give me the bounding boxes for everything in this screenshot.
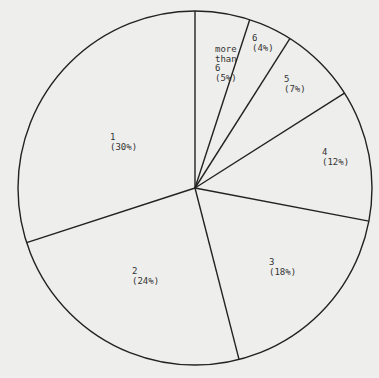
slice-label: 2(24%)	[132, 266, 159, 286]
slice-divider	[195, 39, 290, 188]
slice-divider	[195, 188, 239, 359]
pie-chart: morethan6(5%)6(4%)5(7%)4(12%)3(18%)2(24%…	[0, 0, 379, 378]
slice-label: 5(7%)	[284, 74, 306, 94]
slice-divider	[195, 188, 369, 221]
slice-label: 1(30%)	[110, 132, 137, 152]
slice-label: 3(18%)	[269, 257, 296, 277]
slice-divider	[27, 188, 195, 243]
slice-divider	[195, 93, 344, 188]
slice-label: 6(4%)	[252, 33, 274, 53]
slice-label: 4(12%)	[322, 147, 349, 167]
slice-label: morethan6(5%)	[215, 44, 237, 83]
